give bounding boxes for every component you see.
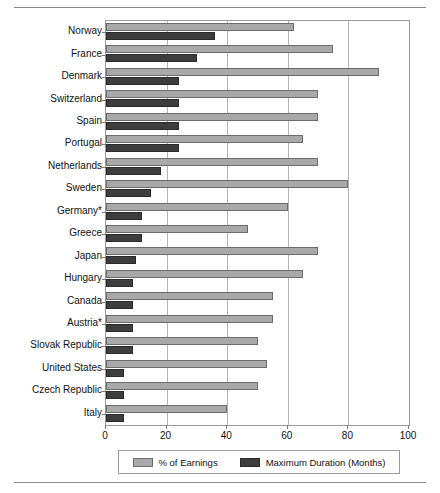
bar-earnings <box>106 90 318 98</box>
bar-earnings <box>106 158 318 166</box>
bar-duration <box>106 189 151 197</box>
legend-label: Maximum Duration (Months) <box>266 457 386 468</box>
bottom-divider-rule <box>14 482 426 483</box>
x-axis-tick-100 <box>408 425 409 429</box>
bar-group <box>106 268 409 290</box>
bar-earnings <box>106 68 379 76</box>
x-axis-ticklabel-0: 0 <box>85 430 125 442</box>
legend-swatch-dark <box>240 458 260 467</box>
x-axis-tick-40 <box>226 425 227 429</box>
y-axis-label-denmark: Denmark <box>6 70 102 81</box>
y-axis-label-germany: Germany* <box>6 205 102 216</box>
x-axis-tick-20 <box>166 425 167 429</box>
y-axis-label-sweden: Sweden <box>6 182 102 193</box>
y-axis-label-united-states: United States <box>6 362 102 373</box>
x-axis-tick-80 <box>347 425 348 429</box>
bar-group <box>106 335 409 357</box>
bar-duration <box>106 414 124 422</box>
y-axis-label-hungary: Hungary <box>6 272 102 283</box>
plot-area <box>105 20 410 426</box>
bar-duration <box>106 279 133 287</box>
bar-group <box>106 88 409 110</box>
bar-earnings <box>106 45 333 53</box>
bar-group <box>106 66 409 88</box>
bar-group <box>106 178 409 200</box>
bar-earnings <box>106 360 267 368</box>
legend-swatch-light <box>133 458 153 467</box>
bar-earnings <box>106 405 227 413</box>
bar-earnings <box>106 247 318 255</box>
chart-legend: % of EarningsMaximum Duration (Months) <box>118 450 400 474</box>
legend-item-earnings: % of Earnings <box>133 457 218 468</box>
bar-duration <box>106 144 179 152</box>
x-axis-ticklabel-60: 60 <box>267 430 307 442</box>
x-axis: 020406080100 <box>105 425 408 445</box>
bar-earnings <box>106 113 318 121</box>
bar-group <box>106 223 409 245</box>
bar-group <box>106 21 409 43</box>
y-axis-label-portugal: Portugal <box>6 137 102 148</box>
y-axis-label-canada: Canada <box>6 295 102 306</box>
bar-duration <box>106 256 136 264</box>
bar-group <box>106 111 409 133</box>
bar-earnings <box>106 203 288 211</box>
bar-group <box>106 290 409 312</box>
bar-group <box>106 245 409 267</box>
bar-group <box>106 133 409 155</box>
legend-label: % of Earnings <box>159 457 218 468</box>
bar-duration <box>106 32 215 40</box>
bar-duration <box>106 301 133 309</box>
y-axis-label-greece: Greece <box>6 227 102 238</box>
bar-group <box>106 313 409 335</box>
bar-duration <box>106 346 133 354</box>
x-axis-ticklabel-40: 40 <box>206 430 246 442</box>
bar-earnings <box>106 23 294 31</box>
bar-group <box>106 380 409 402</box>
bar-group <box>106 403 409 425</box>
y-axis-label-france: France <box>6 48 102 59</box>
bar-duration <box>106 167 161 175</box>
legend-item-duration: Maximum Duration (Months) <box>240 457 386 468</box>
bar-duration <box>106 122 179 130</box>
y-axis-label-italy: Italy <box>6 407 102 418</box>
y-axis-label-slovak-republic: Slovak Republic <box>6 339 102 350</box>
y-axis-label-japan: Japan <box>6 250 102 261</box>
top-divider-rule <box>14 7 426 8</box>
bar-earnings <box>106 135 303 143</box>
y-axis-label-norway: Norway <box>6 25 102 36</box>
x-axis-tick-0 <box>105 425 106 429</box>
bar-duration <box>106 77 179 85</box>
chart-figure: NorwayFranceDenmarkSwitzerlandSpainPortu… <box>0 0 440 493</box>
bar-duration <box>106 54 197 62</box>
y-axis-label-netherlands: Netherlands <box>6 160 102 171</box>
y-axis-label-switzerland: Switzerland <box>6 93 102 104</box>
x-axis-tick-60 <box>287 425 288 429</box>
bar-group <box>106 43 409 65</box>
bar-earnings <box>106 382 258 390</box>
x-axis-ticklabel-80: 80 <box>327 430 367 442</box>
bar-earnings <box>106 270 303 278</box>
bar-group <box>106 201 409 223</box>
x-axis-ticklabel-100: 100 <box>388 430 428 442</box>
bar-duration <box>106 212 142 220</box>
x-axis-ticklabel-20: 20 <box>146 430 186 442</box>
bar-earnings <box>106 315 273 323</box>
bar-earnings <box>106 292 273 300</box>
y-axis-label-austria: Austria* <box>6 317 102 328</box>
bar-earnings <box>106 225 248 233</box>
y-axis-label-spain: Spain <box>6 115 102 126</box>
bar-duration <box>106 234 142 242</box>
bar-duration <box>106 99 179 107</box>
bar-earnings <box>106 337 258 345</box>
bar-duration <box>106 324 133 332</box>
y-axis-label-czech-republic: Czech Republic <box>6 384 102 395</box>
bar-duration <box>106 369 124 377</box>
bar-group <box>106 156 409 178</box>
y-axis-category-labels: NorwayFranceDenmarkSwitzerlandSpainPortu… <box>3 20 102 424</box>
bar-group <box>106 358 409 380</box>
bar-duration <box>106 391 124 399</box>
bar-earnings <box>106 180 348 188</box>
